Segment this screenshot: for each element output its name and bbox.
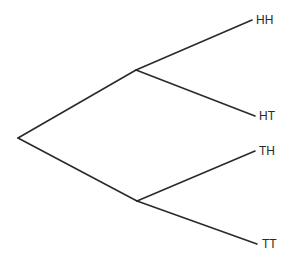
edge-h-to-hh [136,20,252,70]
leaf-label-ht: HT [259,110,275,122]
leaf-label-tt: TT [262,238,277,250]
edge-root-to-t [18,138,137,201]
tree-diagram: HH HT TH TT [0,0,290,270]
leaf-label-hh: HH [256,14,273,26]
edge-h-to-ht [136,70,255,116]
leaf-label-th: TH [259,145,275,157]
edge-t-to-tt [137,201,257,244]
tree-edges [0,0,290,270]
edge-t-to-th [137,151,255,201]
edge-root-to-h [18,70,136,138]
